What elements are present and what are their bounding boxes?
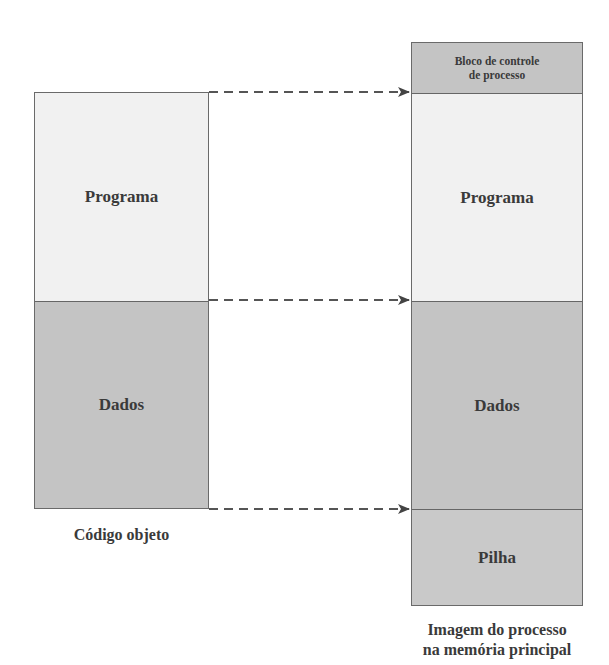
mapping-arrows [0, 0, 609, 665]
